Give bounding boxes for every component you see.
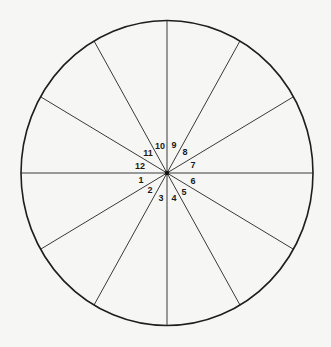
sector-label-7: 7 <box>190 160 195 170</box>
sector-label-1: 1 <box>138 175 143 185</box>
sector-wheel: 123456789101112 <box>0 0 331 347</box>
spoke-line <box>41 97 167 173</box>
spoke-line <box>167 173 293 249</box>
sector-label-3: 3 <box>158 193 163 203</box>
sector-label-6: 6 <box>190 176 195 186</box>
spoke-line <box>167 173 240 305</box>
spoke-line <box>94 41 167 173</box>
sector-label-12: 12 <box>135 161 145 171</box>
sector-label-5: 5 <box>181 187 186 197</box>
center-point <box>165 171 169 175</box>
sector-label-10: 10 <box>155 141 165 151</box>
sector-label-9: 9 <box>171 140 176 150</box>
spoke-line <box>167 97 293 173</box>
sector-label-11: 11 <box>143 148 153 158</box>
sector-diagram: 123456789101112 <box>0 0 331 347</box>
sector-label-8: 8 <box>182 147 187 157</box>
spoke-line <box>94 173 167 305</box>
spoke-line <box>167 41 240 173</box>
sector-label-2: 2 <box>147 185 152 195</box>
sector-label-4: 4 <box>171 193 176 203</box>
